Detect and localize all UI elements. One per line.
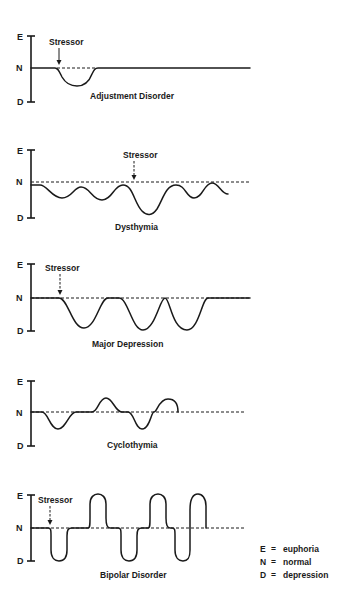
stressor-label: Stressor [45, 263, 80, 273]
axis-label-d: D [17, 97, 24, 107]
stressor-arrow [58, 274, 63, 295]
legend-item-normal: N = normal [260, 557, 311, 567]
stressor-label: Stressor [49, 37, 84, 47]
legend-meaning: normal [283, 557, 311, 567]
stressor-label: Stressor [38, 495, 73, 505]
axis-label-n: N [16, 63, 23, 73]
axis-label-d: D [17, 441, 24, 451]
legend-meaning: euphoria [283, 544, 319, 554]
axis-label-d: D [17, 556, 24, 566]
panel-cyclothymia: E N D Cyclothymia [16, 377, 246, 451]
panel-title: Cyclothymia [107, 440, 158, 450]
axis-label-e: E [17, 260, 23, 270]
panel-adjustment-disorder: E N D Stressor Adjustment Disorder [16, 32, 250, 107]
stressor-arrow [132, 161, 137, 180]
stressor-label: Stressor [123, 150, 158, 160]
mood-curve [31, 68, 250, 86]
axis-label-e: E [17, 32, 23, 42]
legend-meaning: depression [283, 570, 328, 580]
axis-label-n: N [16, 293, 23, 303]
mood-axis [27, 381, 35, 446]
mood-curve [31, 298, 250, 330]
mood-axis [27, 36, 35, 102]
legend-equals: = [271, 570, 276, 580]
mood-disorder-diagram: E N D Stressor Adjustment Disorder E N D… [0, 0, 347, 602]
panel-bipolar-disorder: E N D Stressor Bipolar Disorder [16, 491, 246, 580]
legend-item-euphoria: E = euphoria [260, 544, 319, 554]
legend-key: D [260, 570, 266, 580]
axis-label-d: D [17, 213, 24, 223]
mood-axis [27, 150, 35, 218]
axis-label-e: E [17, 491, 23, 501]
stressor-arrow [57, 48, 62, 65]
axis-label-d: D [17, 326, 24, 336]
panel-title: Dysthymia [115, 222, 158, 232]
mood-curve [31, 398, 178, 429]
legend: E = euphoria N = normal D = depression [260, 544, 328, 580]
axis-label-e: E [17, 377, 23, 387]
legend-equals: = [271, 544, 276, 554]
axis-label-n: N [16, 177, 23, 187]
stressor-arrow [48, 506, 53, 525]
legend-key: E [260, 544, 266, 554]
panel-title: Adjustment Disorder [90, 91, 175, 101]
panel-title: Bipolar Disorder [100, 570, 167, 580]
mood-curve [31, 183, 228, 215]
legend-key: N [260, 557, 266, 567]
axis-label-e: E [17, 146, 23, 156]
panel-major-depression: E N D Stressor Major Depression [16, 260, 250, 349]
legend-item-depression: D = depression [260, 570, 328, 580]
axis-label-n: N [16, 408, 23, 418]
panel-title: Major Depression [92, 339, 163, 349]
axis-label-n: N [16, 523, 23, 533]
legend-equals: = [271, 557, 276, 567]
panel-dysthymia: E N D Stressor Dysthymia [16, 146, 250, 232]
